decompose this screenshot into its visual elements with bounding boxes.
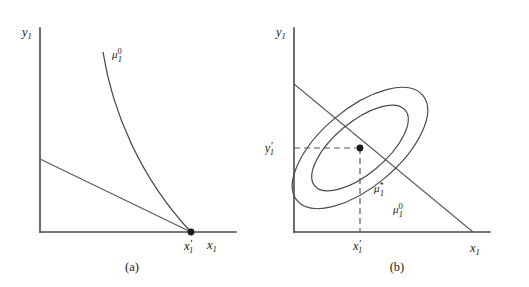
optimum-point-a [188, 229, 195, 236]
y-axis-label-b: y1 [274, 25, 286, 41]
optimum-x-label-b: x′1 [352, 237, 362, 255]
x-axis-label-b-sub: 1 [476, 247, 480, 257]
optimum-point-b [357, 145, 364, 152]
x-axis-label-a: x1 [206, 238, 217, 254]
optimum-x-label-a: x′1 [183, 237, 193, 255]
mu-1-0-label-b-sub: 1 [399, 209, 403, 219]
panel-a-plot: y1 x1 μ01 x′1 [0, 0, 264, 260]
indifference-curve-a [103, 52, 191, 232]
y-axis-label-a-sub: 1 [28, 31, 32, 41]
panel-b-plot: y1 x1 y′1 x′1 μ*1 μ01 [265, 0, 529, 260]
x-axis-label-a-sub: 1 [213, 244, 217, 254]
figure-container: y1 x1 μ01 x′1 (a) [0, 0, 529, 287]
panel-b: y1 x1 y′1 x′1 μ*1 μ01 (b) [265, 0, 529, 287]
optimum-y-label-b: y′1 [265, 139, 274, 157]
mu-1-0-label-a: μ01 [111, 46, 122, 64]
panel-a: y1 x1 μ01 x′1 (a) [0, 0, 264, 287]
mu-1-star-label-b-sub: 1 [380, 188, 384, 198]
x-axis-label-b: x1 [469, 241, 480, 257]
panel-b-caption: (b) [265, 260, 529, 275]
optimum-x-label-a-sub: 1 [189, 245, 193, 255]
y-axis-label-b-sub: 1 [282, 31, 286, 41]
y-axis-label-a: y1 [20, 25, 32, 41]
mu-1-0-label-a-sub: 1 [118, 54, 122, 64]
optimum-y-label-b-sub: 1 [270, 147, 274, 157]
budget-line-a [40, 159, 191, 232]
mu-1-0-label-b: μ01 [392, 201, 403, 219]
optimum-x-label-b-sub: 1 [358, 245, 362, 255]
mu-1-star-label-b: μ*1 [373, 180, 384, 198]
panel-a-caption: (a) [0, 260, 264, 275]
